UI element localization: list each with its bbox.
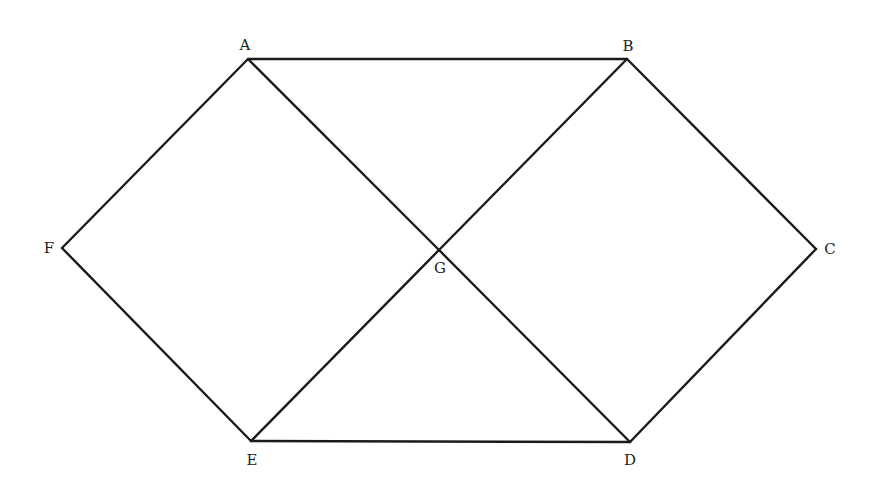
vertex-label-f: F	[44, 239, 54, 257]
graph-diagram: ABCDEFG	[0, 0, 872, 493]
vertex-label-e: E	[247, 451, 258, 469]
vertex-label-d: D	[624, 451, 636, 469]
vertex-label-b: B	[622, 37, 633, 55]
edge-c-d	[630, 249, 816, 442]
edge-g-e	[251, 250, 439, 441]
vertex-label-g: G	[434, 259, 446, 277]
vertex-label-a: A	[239, 36, 251, 54]
edges-group	[62, 59, 816, 442]
edge-g-d	[439, 250, 630, 442]
edge-b-c	[627, 59, 816, 249]
edge-a-g	[248, 59, 439, 250]
edge-d-e	[251, 441, 630, 442]
vertex-labels-group: ABCDEFG	[44, 36, 836, 469]
edge-e-f	[62, 248, 251, 441]
edge-f-a	[62, 59, 248, 248]
vertex-label-c: C	[824, 240, 835, 258]
edge-b-g	[439, 59, 627, 250]
